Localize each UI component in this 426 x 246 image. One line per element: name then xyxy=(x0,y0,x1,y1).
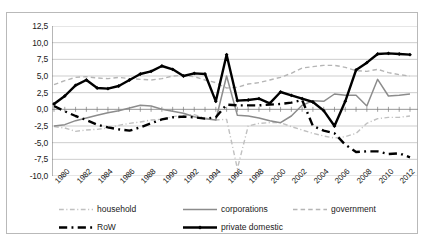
series-line-household xyxy=(54,115,410,169)
legend-row[interactable]: RoW xyxy=(59,223,116,232)
legend-government[interactable]: government xyxy=(293,205,376,214)
y-tick-label: 10,0 xyxy=(32,38,48,48)
y-tick-label: 7,5 xyxy=(37,54,48,64)
y-tick-label: 0,0 xyxy=(37,104,48,114)
y-tick-label: -5,0 xyxy=(34,138,48,148)
legend-private-domestic-label: private domestic xyxy=(221,223,283,232)
legend-household[interactable]: household xyxy=(59,205,136,214)
y-tick-label: -7,5 xyxy=(34,154,48,164)
legend-corporations-swatch xyxy=(183,205,217,214)
legend-government-swatch xyxy=(293,205,327,214)
legend-private-domestic[interactable]: private domestic xyxy=(183,223,283,232)
series-line-corporations xyxy=(54,76,410,126)
data-point-marker xyxy=(397,52,401,56)
plot-area xyxy=(52,26,418,176)
data-point-marker xyxy=(387,51,391,55)
legend-government-label: government xyxy=(331,205,376,214)
y-axis-labels: 12,510,07,55,02,50,0-2,5-5,0-7,5-10,0 xyxy=(7,26,48,176)
legend-corporations[interactable]: corporations xyxy=(183,205,268,214)
legend-household-swatch xyxy=(59,205,93,214)
legend-private-domestic-swatch xyxy=(183,223,217,232)
series-line-RoW xyxy=(54,100,410,157)
legend-household-label: household xyxy=(97,205,136,214)
plot-svg xyxy=(52,26,418,176)
y-tick-label: -10,0 xyxy=(30,171,48,181)
y-tick-label: 5,0 xyxy=(37,71,48,81)
legend-corporations-label: corporations xyxy=(221,205,268,214)
legend-row-swatch xyxy=(59,223,93,232)
legend-row-label: RoW xyxy=(97,223,116,232)
data-point-marker xyxy=(408,53,412,57)
y-tick-label: 2,5 xyxy=(37,88,48,98)
chart-legend: householdcorporationsgovernmentRoWprivat… xyxy=(7,203,419,233)
y-tick-label: -2,5 xyxy=(34,121,48,131)
chart-screenshot: 12,510,07,55,02,50,0-2,5-5,0-7,5-10,0 19… xyxy=(0,0,426,246)
chart-frame: 12,510,07,55,02,50,0-2,5-5,0-7,5-10,0 19… xyxy=(6,12,418,234)
y-tick-label: 12,5 xyxy=(32,21,48,31)
